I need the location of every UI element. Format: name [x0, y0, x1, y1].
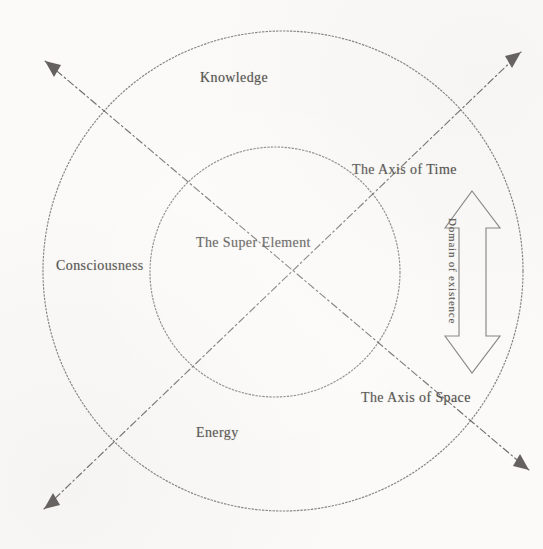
label-energy: Energy: [196, 425, 239, 441]
super-element-diagram: [0, 0, 543, 549]
label-consciousness: Consciousness: [56, 258, 144, 274]
inner-circle: [150, 147, 400, 397]
label-axis-of-space: The Axis of Space: [361, 390, 471, 406]
label-domain-of-existence: Domain of existence: [447, 218, 459, 324]
diagram-canvas: Knowledge Consciousness Energy The Super…: [0, 0, 543, 549]
axis-of-space-arrowhead-se: [513, 454, 529, 470]
label-super-element: The Super Element: [196, 235, 311, 251]
axis-of-space-arrowhead-nw: [45, 61, 61, 77]
label-knowledge: Knowledge: [200, 70, 268, 86]
label-axis-of-time: The Axis of Time: [352, 162, 457, 178]
